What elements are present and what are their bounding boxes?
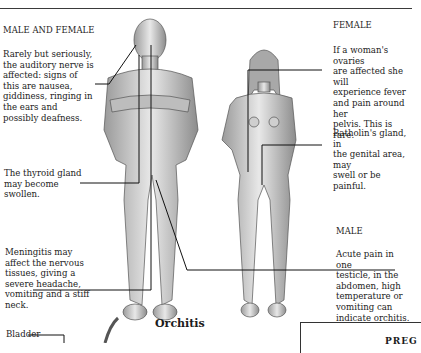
heading-female: FEMALE [333, 20, 372, 30]
organ-sketch [105, 318, 118, 343]
heading-male: MALE [336, 226, 363, 236]
preg-box-text: PREG [385, 336, 418, 346]
female-figure [222, 50, 296, 317]
orchitis-title: Orchitis [155, 317, 205, 330]
batholin-gland-note: Batholin's gland, in the genital area, m… [333, 128, 412, 192]
meningitis-note: Meningitis may affect the nervous tissue… [5, 247, 89, 311]
ovaries-note: If a woman's ovaries are affected she wi… [333, 45, 412, 140]
heading-male-and-female: MALE AND FEMALE [3, 25, 94, 35]
auditory-nerve-note: Rarely but seriously, the auditory nerve… [3, 49, 94, 123]
thyroid-note: The thyroid gland may become swollen. [4, 168, 82, 200]
orchitis-signs-note: Acute pain in one testicle, in the abdom… [336, 249, 412, 323]
bladder-label: Bladder [6, 329, 40, 340]
